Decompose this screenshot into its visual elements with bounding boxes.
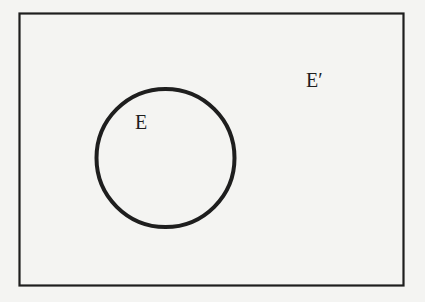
set-e-label: E <box>135 111 147 133</box>
universe-rectangle <box>20 14 404 286</box>
venn-diagram: E E′ <box>0 0 425 302</box>
set-e-circle <box>97 89 235 227</box>
complement-e-label: E′ <box>306 69 323 91</box>
